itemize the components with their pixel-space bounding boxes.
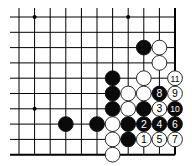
white-stone [105,117,120,132]
go-board: 1189310246157 [0,0,192,166]
move-number-label: 10 [170,104,180,114]
black-stone [136,40,151,55]
star-point [33,107,37,111]
move-number-label: 2 [141,118,147,130]
black-stone [136,101,151,116]
black-stone [105,101,120,116]
white-stone [136,86,151,101]
move-number-label: 7 [172,133,178,145]
black-stone [90,117,105,132]
move-number-label: 5 [156,133,162,145]
black-stone [121,117,136,132]
white-stone [152,56,167,71]
move-number-label: 1 [141,133,147,145]
move-number-label: 3 [156,102,162,114]
white-stone [121,86,136,101]
move-number-label: 6 [172,118,178,130]
black-stone [121,132,136,147]
move-number-label: 4 [156,118,162,130]
move-number-label: 11 [171,74,180,84]
white-stone [136,71,151,86]
white-stone [152,40,167,55]
move-number-label: 9 [172,87,178,99]
white-stone [121,101,136,116]
black-stone [58,117,73,132]
star-point [33,15,37,19]
go-board-canvas: 1189310246157 [0,0,192,166]
star-point [126,15,130,19]
white-stone [105,132,120,147]
white-stone [105,147,120,162]
black-stone [105,71,120,86]
move-number-label: 8 [156,87,162,99]
black-stone [105,86,120,101]
